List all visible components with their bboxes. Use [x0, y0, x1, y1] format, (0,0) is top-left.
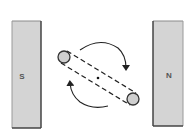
top-rotation-arrow-icon	[80, 42, 126, 68]
coil-side-lower	[61, 63, 130, 105]
north-magnet: N	[153, 21, 183, 126]
coil-end-upper-left-icon	[58, 51, 70, 63]
coil	[58, 51, 139, 105]
coil-side-upper	[67, 51, 136, 93]
generator-diagram: S N	[0, 0, 189, 136]
bottom-rotation-arrow-icon	[70, 83, 108, 107]
south-pole-label: S	[19, 72, 25, 81]
coil-end-lower-right-icon	[127, 93, 139, 105]
rotation-axis-dot-icon	[97, 77, 100, 80]
south-magnet: S	[12, 21, 41, 128]
diagram-canvas: S N	[0, 0, 189, 136]
north-pole-label: N	[166, 71, 172, 80]
